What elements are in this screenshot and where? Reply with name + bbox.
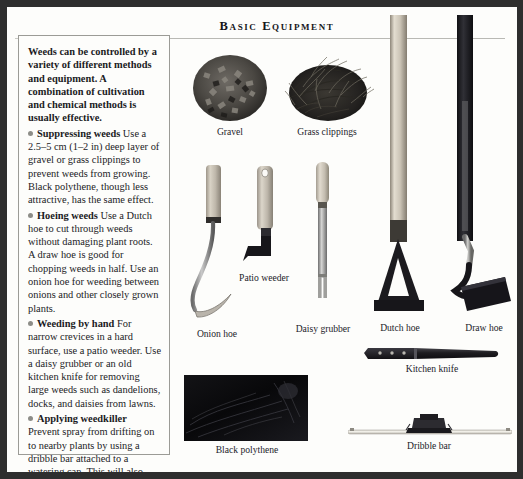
grass-clippings-photo bbox=[281, 47, 375, 125]
caption-gravel: Gravel bbox=[188, 126, 272, 137]
bullet-item: Applying weedkiller Prevent spray from d… bbox=[28, 412, 161, 472]
daisy-grubber-tool bbox=[307, 162, 339, 312]
bullet-body: Prevent spray from drifting on to nearby… bbox=[28, 426, 154, 472]
caption-draw-hoe: Draw hoe bbox=[450, 322, 517, 333]
caption-daisy-grubber: Daisy grubber bbox=[293, 323, 353, 334]
bullet-body: Use a 2.5–5 cm (1–2 in) deep layer of gr… bbox=[28, 128, 159, 205]
frame-edge-bottom bbox=[0, 472, 523, 479]
gravel-photo bbox=[188, 53, 272, 123]
draw-hoe-tool bbox=[445, 15, 515, 317]
bullet-dot-icon bbox=[28, 416, 33, 421]
page-root: Basic Equipment Weeds can be controlled … bbox=[0, 0, 523, 479]
bullet-body: Use a Dutch hoe to cut through weeds wit… bbox=[28, 210, 159, 314]
bullet-item: Hoeing weeds Use a Dutch hoe to cut thro… bbox=[28, 209, 161, 315]
page-content: Basic Equipment Weeds can be controlled … bbox=[7, 7, 517, 472]
caption-patio-weeder: Patio weeder bbox=[225, 272, 303, 283]
frame-edge-top bbox=[0, 0, 523, 7]
onion-hoe-tool bbox=[189, 165, 241, 320]
bullet-dot-icon bbox=[28, 321, 33, 326]
caption-onion-hoe: Onion hoe bbox=[180, 328, 254, 339]
bullet-term: Applying weedkiller bbox=[37, 413, 127, 424]
caption-kitchen-knife: Kitchen knife bbox=[382, 363, 482, 374]
dribble-bar-tool bbox=[348, 414, 512, 440]
bullet-term: Weeding by hand bbox=[37, 318, 114, 329]
intro-paragraph: Weeds can be controlled by a variety of … bbox=[28, 45, 161, 125]
bullet-item: Weeding by hand For narrow crevices in a… bbox=[28, 317, 161, 410]
caption-dribble-bar: Dribble bar bbox=[379, 440, 479, 451]
black-polythene-photo bbox=[184, 375, 308, 441]
caption-black-polythene: Black polythene bbox=[192, 444, 302, 455]
frame-edge-right bbox=[517, 0, 523, 479]
page-title: Basic Equipment bbox=[157, 19, 397, 34]
caption-dutch-hoe: Dutch hoe bbox=[365, 322, 435, 333]
frame-edge-left bbox=[0, 0, 7, 479]
patio-weeder-tool bbox=[240, 164, 292, 269]
bullet-term: Suppressing weeds bbox=[37, 128, 120, 139]
dutch-hoe-tool bbox=[371, 15, 427, 317]
bullet-item: Suppressing weeds Use a 2.5–5 cm (1–2 in… bbox=[28, 127, 161, 207]
bullet-dot-icon bbox=[28, 213, 33, 218]
caption-grass-clippings: Grass clippings bbox=[279, 126, 375, 137]
advice-text-panel: Weeds can be controlled by a variety of … bbox=[18, 35, 170, 455]
bullet-body: For narrow crevices in a hard surface, u… bbox=[28, 318, 161, 409]
bullet-term: Hoeing weeds bbox=[37, 210, 98, 221]
bullet-dot-icon bbox=[28, 131, 33, 136]
